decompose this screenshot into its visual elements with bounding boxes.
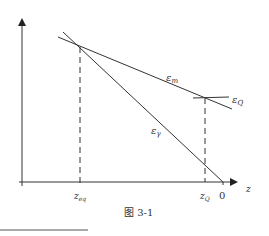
x-axis-label: z — [245, 184, 251, 194]
z-q-label: zQ — [199, 191, 210, 202]
diagram-canvas: εm εQ εγ zeq zQ 0 z 图 3-1 — [0, 0, 269, 236]
z-eq-label: zeq — [73, 191, 86, 203]
eps-q-line — [193, 97, 229, 98]
eps-m-label: εm — [166, 72, 178, 85]
zero-label: 0 — [219, 190, 225, 201]
eps-q-label: εQ — [232, 94, 243, 107]
eps-m-line — [58, 37, 232, 109]
eps-gamma-line — [63, 32, 223, 182]
eps-gamma-label: εγ — [151, 125, 161, 138]
figure-caption: 图 3-1 — [124, 207, 153, 218]
